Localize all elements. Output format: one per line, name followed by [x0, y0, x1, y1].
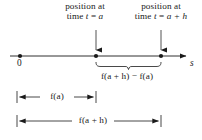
point-a-dot: [94, 54, 98, 58]
callout-left-value: a: [99, 11, 104, 21]
callout-right-line2: time t = a + h: [123, 12, 199, 22]
callout-label-position-at-a-plus-h: position at time t = a + h: [123, 2, 199, 21]
difference-label: f(a + h) − f(a): [92, 72, 162, 82]
position-number-line-figure: position at time t = a position at time …: [0, 0, 202, 140]
origin-label: 0: [17, 59, 22, 69]
point-a-plus-h-dot: [159, 54, 163, 58]
callout-right-equals: =: [157, 11, 167, 21]
callout-label-position-at-a: position at time t = a: [54, 2, 116, 21]
callout-left-line2: time t = a: [54, 12, 116, 22]
measure-fah-label: f(a + h): [72, 116, 114, 126]
callout-right-value: a + h: [167, 11, 187, 21]
difference-underbrace: [96, 62, 161, 70]
axis-variable-label: s: [190, 59, 194, 69]
callout-right-time-word: time: [135, 11, 154, 21]
measure-fa-label: f(a): [40, 92, 74, 102]
number-line-axis: [10, 54, 186, 58]
callout-left-equals: =: [89, 11, 99, 21]
callout-left-time-word: time: [67, 11, 86, 21]
